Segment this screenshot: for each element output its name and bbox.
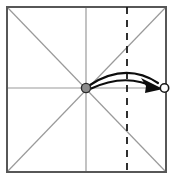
right-edge-target-point bbox=[160, 84, 168, 92]
center-pivot-point bbox=[81, 83, 90, 92]
origami-diagram-container bbox=[0, 0, 173, 180]
origami-fold-svg bbox=[0, 0, 173, 180]
